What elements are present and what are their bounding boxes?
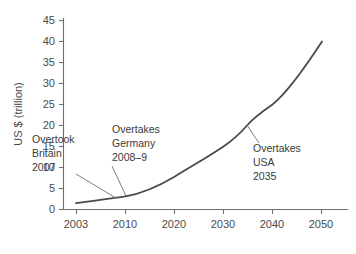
y-tick-label-40: 40 [43, 35, 55, 47]
line-chart: 0 5 10 15 20 25 30 35 40 45 US $ (trilli… [0, 0, 356, 254]
annotation-overtakes-usa-line-2: USA [253, 156, 275, 168]
y-tick-label-0: 0 [49, 203, 55, 215]
annotation-overtakes-germany-line-2: Germany [112, 137, 156, 149]
x-tick-label-2010: 2010 [113, 218, 137, 230]
y-tick-label-20: 20 [43, 119, 55, 131]
x-tick-label-2030: 2030 [211, 218, 235, 230]
annotation-overtook-britain-line-2: Britain [32, 147, 62, 159]
annotation-overtakes-germany-line-1: Overtakes [112, 123, 160, 135]
annotation-overtakes-usa-line-1: Overtakes [253, 142, 301, 154]
y-axis-title: US $ (trillion) [12, 82, 24, 146]
annotation-overtakes-germany-line-3: 2008–9 [112, 151, 147, 163]
x-tick-label-2020: 2020 [162, 218, 186, 230]
annotation-overtook-britain-line-3: 2007 [32, 161, 56, 173]
x-tick-label-2040: 2040 [260, 218, 284, 230]
annotation-overtakes-usa-line-3: 2035 [253, 170, 277, 182]
y-tick-label-30: 30 [43, 77, 55, 89]
chart-container: 0 5 10 15 20 25 30 35 40 45 US $ (trilli… [0, 0, 356, 254]
y-tick-label-45: 45 [43, 14, 55, 26]
x-tick-label-2050: 2050 [309, 218, 333, 230]
x-tick-label-2003: 2003 [64, 218, 88, 230]
annotation-overtook-britain-line-1: Overtook [32, 133, 75, 145]
y-tick-label-25: 25 [43, 98, 55, 110]
y-tick-label-5: 5 [49, 182, 55, 194]
y-tick-label-35: 35 [43, 56, 55, 68]
